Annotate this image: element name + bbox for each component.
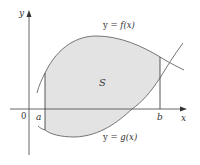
bound-label-b: b: [157, 112, 163, 122]
curve-f-label: y = f(x): [102, 20, 135, 30]
bound-label-a: a: [36, 112, 41, 122]
curve-g-label: y = g(x): [102, 132, 137, 142]
x-axis-label: x: [181, 113, 186, 123]
origin-label: 0: [21, 111, 26, 121]
area-between-curves-diagram: y x 0 a b S y = f(x) y = g(x): [0, 0, 200, 165]
y-axis-label: y: [18, 8, 25, 18]
region-label-s: S: [99, 77, 106, 88]
x-axis-arrow-icon: [180, 107, 187, 112]
y-axis-arrow-icon: [27, 10, 32, 17]
